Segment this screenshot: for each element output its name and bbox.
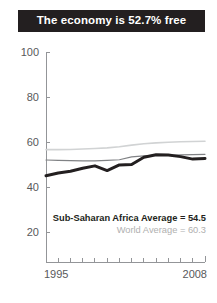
x-axis-ticks [46,258,205,262]
chart-container: The economy is 52.7% free 20406080100 19… [0,0,217,303]
y-tick-label: 20 [27,226,39,238]
chart-legend: Sub-Saharan Africa Average = 54.5 World … [40,212,206,236]
line-chart-plot: 20406080100 19952008 [0,0,217,303]
chart-series-lines [46,141,205,175]
series-line [46,141,205,149]
legend-item-africa-average: Sub-Saharan Africa Average = 54.5 [40,212,206,224]
x-axis-labels: 19952008 [44,268,207,280]
legend-item-world-average: World Average = 60.3 [40,224,206,236]
y-tick-label: 80 [27,91,39,103]
x-tick-label: 1995 [44,268,68,280]
y-tick-label: 40 [27,181,39,193]
y-tick-label: 60 [27,136,39,148]
x-tick-label: 2008 [183,268,207,280]
y-tick-label: 100 [21,46,39,58]
